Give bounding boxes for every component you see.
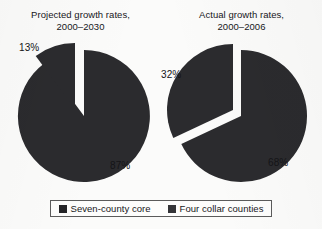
chart-title-line1: Actual growth rates, — [199, 9, 284, 20]
chart-title-line2: 2000–2030 — [56, 21, 104, 32]
pie-slice-four-collar-counties[interactable] — [167, 44, 233, 138]
legend-item-four-collar-counties[interactable]: Four collar counties — [168, 204, 264, 214]
chart-title-actual: Actual growth rates,2000–2006 — [161, 9, 322, 32]
pie-label-four-collar-counties: 32% — [161, 69, 181, 80]
chart-title-line2: 2000–2006 — [217, 21, 265, 32]
pie-label-four-collar-counties: 13% — [19, 42, 39, 53]
pie-svg-actual — [167, 36, 317, 186]
seven-county-core-swatch — [59, 205, 67, 213]
legend-label-seven-county-core: Seven-county core — [71, 204, 151, 214]
pie-area-actual — [161, 36, 322, 192]
chart-title-projected: Projected growth rates,2000–2030 — [0, 9, 161, 32]
pie-label-seven-county-core: 87% — [110, 160, 130, 171]
chart-panel-actual: Actual growth rates,2000–2006 32% 68% — [161, 0, 322, 196]
chart-title-line1: Projected growth rates, — [31, 9, 130, 20]
legend-item-seven-county-core[interactable]: Seven-county core — [59, 204, 151, 214]
legend-label-four-collar-counties: Four collar counties — [180, 204, 264, 214]
pie-area-projected — [0, 36, 161, 192]
chart-legend: Seven-county core Four collar counties — [50, 200, 272, 217]
pie-chart-figure: Projected growth rates,2000–2030 13% 87%… — [0, 0, 322, 229]
four-collar-counties-swatch — [168, 205, 176, 213]
chart-panel-projected: Projected growth rates,2000–2030 13% 87% — [0, 0, 161, 196]
pie-svg-projected — [6, 36, 156, 186]
pie-label-seven-county-core: 68% — [268, 157, 288, 168]
